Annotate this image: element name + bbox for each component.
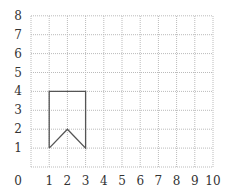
- x-tick-label: 0: [14, 174, 22, 188]
- y-tick-label: 4: [14, 84, 22, 98]
- x-axis-labels: 012345678910: [14, 174, 220, 188]
- x-tick-label: 4: [100, 174, 108, 188]
- shape-outline: [49, 91, 85, 148]
- x-tick-label: 1: [45, 174, 53, 188]
- y-tick-label: 3: [14, 103, 22, 117]
- x-tick-label: 7: [155, 174, 163, 188]
- x-tick-label: 3: [82, 174, 90, 188]
- x-tick-label: 5: [118, 174, 126, 188]
- pennant-shape: [49, 91, 85, 148]
- y-tick-label: 7: [14, 28, 22, 42]
- y-tick-label: 6: [14, 47, 22, 61]
- y-tick-label: 5: [14, 66, 22, 80]
- y-axis-labels: 12345678: [14, 9, 22, 155]
- coordinate-grid-figure: 012345678910 12345678: [0, 0, 225, 194]
- x-tick-label: 9: [191, 174, 199, 188]
- x-tick-label: 6: [136, 174, 144, 188]
- x-tick-label: 10: [205, 174, 220, 188]
- y-tick-label: 2: [14, 122, 22, 136]
- y-tick-label: 1: [14, 141, 22, 155]
- x-tick-label: 8: [173, 174, 181, 188]
- y-tick-label: 8: [14, 9, 22, 23]
- x-tick-label: 2: [64, 174, 72, 188]
